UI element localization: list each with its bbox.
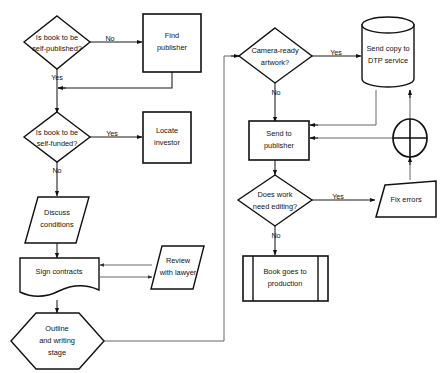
predefined-process-line1: Book goes to bbox=[263, 267, 306, 276]
edge-label-no-self-published: No bbox=[105, 34, 114, 43]
process-locate-investor[interactable]: Locate investor bbox=[143, 112, 191, 163]
preparation-outline-line1: Outline bbox=[45, 324, 68, 333]
edge-label-no-self-funded: No bbox=[52, 166, 61, 175]
decision-self-published[interactable]: Is book to be self-published? bbox=[24, 16, 90, 69]
document-sign-contracts[interactable]: Sign contracts bbox=[20, 258, 99, 296]
decision-camera-ready-line1: Camera-ready bbox=[251, 46, 299, 55]
data-review-with-lawyer[interactable]: Review with lawyer bbox=[151, 246, 204, 289]
process-send-publisher-line1: Send to bbox=[266, 129, 291, 138]
data-review-with-lawyer-line1: Review bbox=[166, 256, 191, 265]
decision-does-work-need-editing[interactable]: Does work need editing? bbox=[238, 175, 312, 226]
data-discuss-conditions-line2: conditions bbox=[40, 220, 74, 229]
manual-operation-fix-errors-line1: Fix errors bbox=[390, 195, 422, 204]
decision-editing-line1: Does work bbox=[258, 190, 293, 199]
decision-self-funded-line2: self-funded? bbox=[37, 139, 78, 148]
data-review-with-lawyer-line2: with lawyer bbox=[159, 268, 197, 277]
database-dtp-line1: Send copy to bbox=[366, 44, 409, 53]
edge-label-no-camera-ready: No bbox=[271, 88, 280, 97]
connector-find-publisher-return bbox=[58, 72, 172, 88]
edge-label-no-need-editing: No bbox=[271, 231, 280, 240]
database-dtp-line2: DTP service bbox=[368, 56, 408, 65]
data-discuss-conditions-line1: Discuss bbox=[44, 208, 70, 217]
decision-self-funded[interactable]: Is book to be self-funded? bbox=[24, 112, 90, 162]
data-discuss-conditions[interactable]: Discuss conditions bbox=[25, 197, 89, 243]
decision-camera-ready-artwork[interactable]: Camera-ready artwork? bbox=[239, 28, 312, 83]
edge-label-yes-self-funded: Yes bbox=[106, 129, 118, 138]
manual-operation-fix-errors[interactable]: Fix errors bbox=[376, 181, 436, 217]
predefined-process-book-goes-to-production[interactable]: Book goes to production bbox=[243, 256, 328, 301]
preparation-outline-line2: and writing bbox=[39, 336, 75, 345]
process-send-to-publisher[interactable]: Send to publisher bbox=[249, 121, 309, 160]
decision-self-funded-line1: Is book to be bbox=[36, 128, 78, 137]
flowchart-canvas: Is book to be self-published? Find publi… bbox=[0, 0, 444, 373]
process-find-publisher-line2: publisher bbox=[157, 43, 188, 52]
document-sign-contracts-line1: Sign contracts bbox=[36, 267, 83, 276]
edge-label-yes-self-published: Yes bbox=[51, 73, 63, 82]
junction-merge-circle[interactable] bbox=[393, 119, 427, 157]
decision-editing-line2: need editing? bbox=[253, 202, 297, 211]
flowchart-svg: Is book to be self-published? Find publi… bbox=[0, 0, 444, 373]
decision-self-published-line2: self-published? bbox=[32, 44, 82, 53]
edge-label-yes-need-editing: Yes bbox=[332, 192, 344, 201]
connector-outline-to-camera-ready bbox=[104, 56, 239, 341]
process-send-publisher-line2: publisher bbox=[264, 141, 295, 150]
process-find-publisher[interactable]: Find publisher bbox=[143, 14, 201, 72]
process-locate-investor-line2: investor bbox=[154, 138, 180, 147]
predefined-process-line2: production bbox=[268, 279, 303, 288]
preparation-outline-line3: stage bbox=[48, 348, 66, 357]
decision-camera-ready-line2: artwork? bbox=[261, 58, 289, 67]
edge-label-yes-camera-ready: Yes bbox=[330, 48, 342, 57]
connector-dtp-to-send-publisher bbox=[310, 90, 376, 125]
decision-self-published-line1: Is book to be bbox=[36, 33, 78, 42]
preparation-outline-writing-stage[interactable]: Outline and writing stage bbox=[11, 313, 104, 369]
process-locate-investor-line1: Locate bbox=[156, 126, 178, 135]
process-find-publisher-line1: Find bbox=[165, 31, 179, 40]
database-send-copy-dtp[interactable]: Send copy to DTP service bbox=[362, 17, 414, 87]
